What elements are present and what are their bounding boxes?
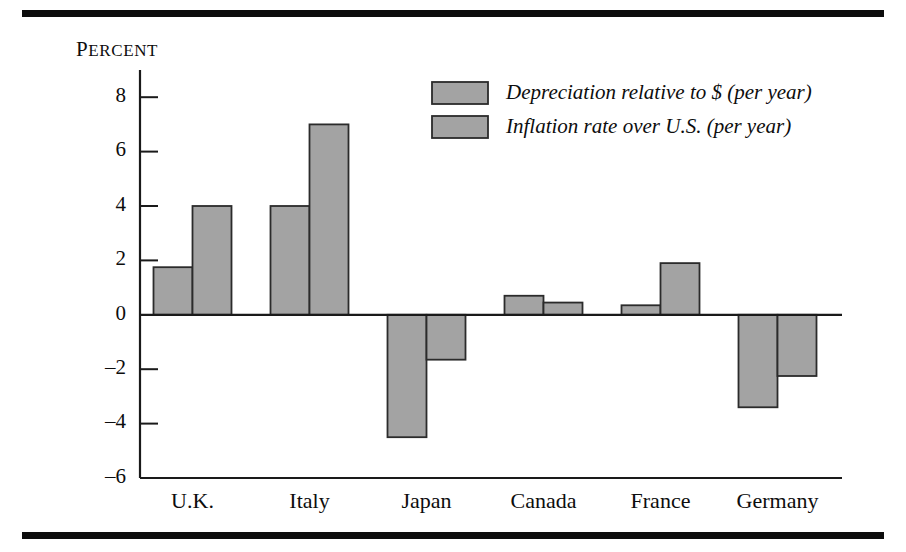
y-tick-label: 6 [116, 137, 127, 161]
y-tick-label: –2 [104, 355, 126, 379]
x-category-label: Germany [737, 488, 819, 513]
x-category-label: Japan [401, 488, 451, 513]
bars-layer [154, 124, 817, 437]
legend-swatch [432, 116, 488, 138]
bar [271, 206, 310, 315]
legend-label: Depreciation relative to $ (per year) [505, 80, 812, 104]
bar [310, 124, 349, 314]
x-category-label: France [631, 488, 691, 513]
y-tick-label: –6 [104, 464, 126, 488]
x-category-label: U.K. [171, 488, 214, 513]
bar [622, 305, 661, 315]
y-tick-label: 0 [116, 301, 127, 325]
bar-chart: 86420–2–4–6 U.K.ItalyJapanCanadaFranceGe… [0, 0, 906, 552]
y-tick-label: 2 [116, 246, 127, 270]
y-tick-label: 4 [116, 192, 127, 216]
bar [427, 315, 466, 360]
legend-label: Inflation rate over U.S. (per year) [505, 114, 791, 138]
y-tick-label: 8 [116, 83, 127, 107]
x-category-labels: U.K.ItalyJapanCanadaFranceGermany [171, 488, 818, 513]
bar [388, 315, 427, 437]
bar [193, 206, 232, 315]
legend-swatch [432, 82, 488, 104]
bar [778, 315, 817, 376]
x-category-label: Italy [289, 488, 329, 513]
bar [505, 296, 544, 315]
y-tick-labels: 86420–2–4–6 [104, 83, 127, 488]
bar [739, 315, 778, 407]
figure: 86420–2–4–6 U.K.ItalyJapanCanadaFranceGe… [0, 0, 906, 552]
bar [544, 303, 583, 315]
bar [154, 267, 193, 315]
x-category-label: Canada [511, 488, 577, 513]
y-axis-title: PERCENT [76, 37, 158, 61]
y-tick-label: –4 [104, 409, 127, 433]
chart-legend: Depreciation relative to $ (per year)Inf… [432, 80, 812, 138]
chart-svg: 86420–2–4–6 U.K.ItalyJapanCanadaFranceGe… [0, 0, 906, 552]
bar [661, 263, 700, 315]
